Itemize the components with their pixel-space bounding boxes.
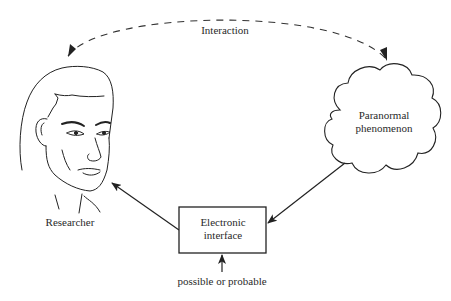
researcher-label: Researcher bbox=[40, 216, 100, 229]
diagram-canvas bbox=[0, 0, 451, 301]
interaction-label: Interaction bbox=[197, 24, 253, 37]
phenomenon-label-line1: Paranormal bbox=[352, 109, 416, 122]
interface-label-line1: Electronic bbox=[190, 216, 256, 229]
interface-label-line2: interface bbox=[190, 229, 256, 242]
interaction-arrowhead-left-icon bbox=[68, 44, 76, 57]
phenomenon-label: Paranormal phenomenon bbox=[352, 109, 416, 135]
possible-or-probable-label: possible or probable bbox=[176, 275, 268, 288]
interface-label: Electronic interface bbox=[190, 216, 256, 242]
arrow-phenomenon-to-interface bbox=[268, 163, 345, 223]
phenomenon-label-line2: phenomenon bbox=[352, 122, 416, 135]
arrow-interface-to-researcher bbox=[112, 183, 179, 230]
researcher-face-icon bbox=[20, 66, 113, 213]
